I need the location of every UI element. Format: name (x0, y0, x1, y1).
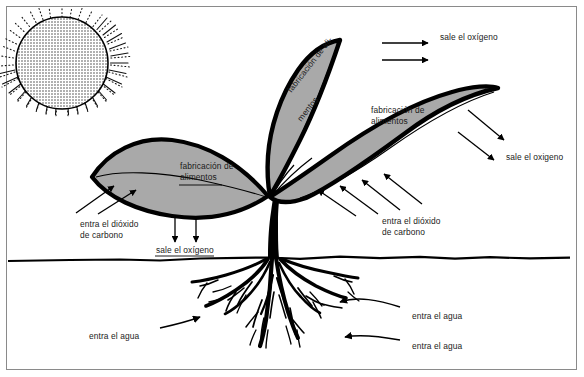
arrow-water-right-2 (345, 336, 400, 340)
arrow-co2-right-3 (362, 180, 400, 210)
label-entra-co2-derecha-1: entra el dióxido (382, 216, 440, 227)
label-entra-co2-derecha-2: de carbono (382, 227, 425, 238)
label-entra-agua-izquierda: entra el agua (89, 331, 139, 342)
plant-stem (268, 194, 280, 258)
arrow-oxygen-right-2 (458, 132, 494, 160)
label-fabricacion-derecha-2: alimentos (371, 116, 408, 127)
arrow-co2-right-4 (384, 174, 422, 204)
label-sale-oxigeno-derecha: sale el oxigeno (506, 152, 563, 163)
label-sale-oxigeno-top: sale el oxígeno (440, 32, 498, 43)
label-fabricacion-derecha-1: fabricación de (371, 105, 425, 116)
sun-icon (0, 7, 130, 116)
label-entra-co2-izquierda-2: de carbono (80, 230, 123, 241)
arrows-water-group (160, 299, 400, 340)
arrow-co2-left-1 (76, 186, 114, 213)
photosynthesis-diagram: sale el oxígeno fabricación de ali- ment… (0, 0, 584, 377)
label-entra-agua-derecha-2: entra el agua (412, 341, 462, 352)
plant-roots (192, 258, 359, 348)
arrow-oxygen-right-1 (468, 110, 504, 140)
arrow-water-right-1 (340, 299, 400, 307)
arrow-water-left (160, 317, 200, 328)
arrow-co2-right-2 (340, 186, 378, 214)
sun-disc-icon (16, 17, 108, 109)
label-entra-co2-izquierda-1: entra el dióxido (80, 219, 138, 230)
label-fabricacion-izquierda-1: fabricación de (180, 161, 234, 172)
diagram-artwork (0, 0, 584, 377)
label-fabricacion-izquierda-2: alimentos (180, 172, 217, 183)
label-sale-oxigeno-abajo: sale el oxígeno (156, 245, 214, 256)
label-entra-agua-derecha-1: entra el agua (412, 311, 462, 322)
